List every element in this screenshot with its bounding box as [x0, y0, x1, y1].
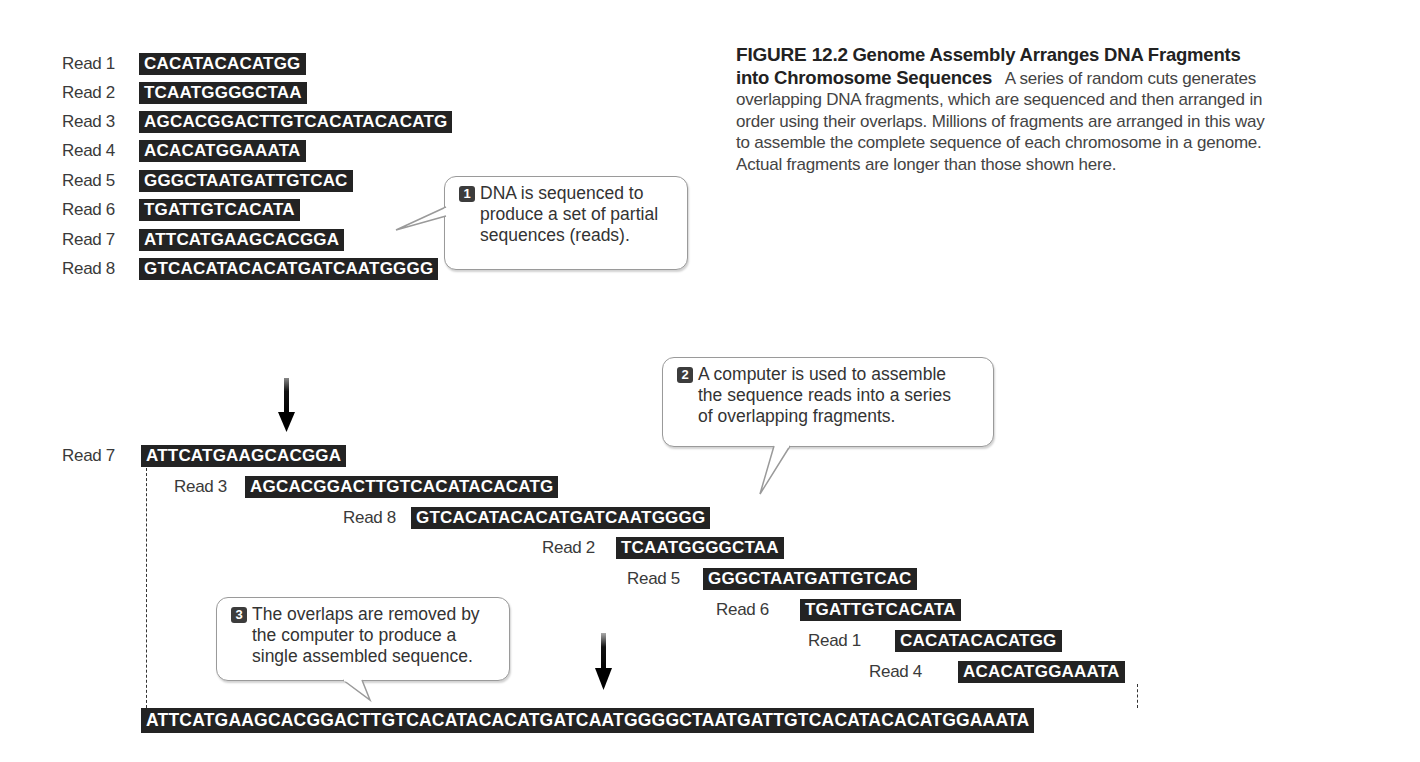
assembled-sequence: ATTCATGAAGCACGGACTTGTCACATACACATGATCAATG… [141, 708, 1034, 733]
down-arrow-icon [0, 0, 1420, 762]
